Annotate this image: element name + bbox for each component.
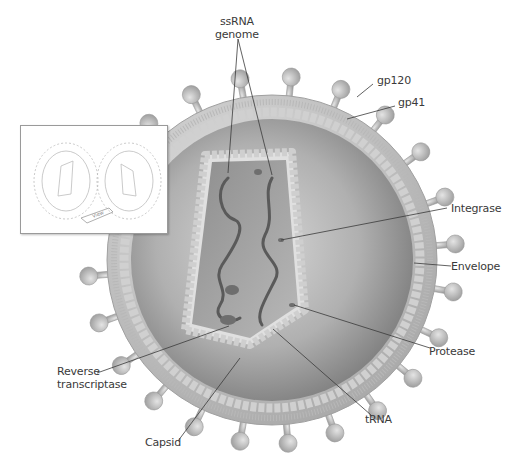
label-gp41: gp41 <box>398 96 425 109</box>
virus-illustration <box>0 0 513 470</box>
label-envelope: Envelope <box>451 260 500 273</box>
label-capsid: Capsid <box>145 436 181 449</box>
capsid-core <box>185 152 305 345</box>
label-ssrna-genome: ssRNA genome <box>215 15 259 41</box>
label-integrase: Integrase <box>451 202 501 215</box>
label-trna: tRNA <box>365 413 392 426</box>
label-gp120: gp120 <box>377 74 411 87</box>
orientation-inset: View <box>20 125 168 234</box>
inset-sketch: View <box>21 126 167 233</box>
virus-diagram: View ssRNA genome gp120 gp41 Integrase E… <box>0 0 513 470</box>
label-protease: Protease <box>429 345 475 358</box>
inset-view-label: View <box>91 209 104 219</box>
label-reverse-transcriptase: Reverse transcriptase <box>57 365 127 391</box>
